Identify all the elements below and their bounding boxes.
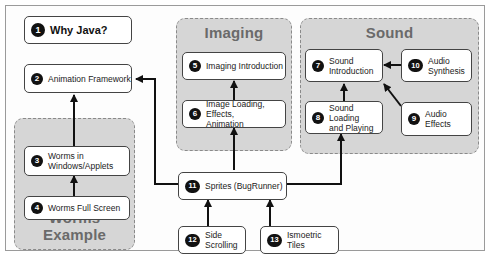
- badge-12-icon: 12: [185, 234, 200, 247]
- node-label: Image Loading, Effects, Animation: [206, 99, 285, 129]
- node-worms-windows-applets: 3 Worms in Windows/Applets: [24, 146, 130, 176]
- node-sound-introduction: 7 Sound Introduction: [305, 49, 383, 82]
- badge-5-icon: 5: [189, 60, 201, 72]
- node-image-loading-effects: 6 Image Loading, Effects, Animation: [182, 100, 286, 128]
- badge-11-icon: 11: [185, 180, 200, 193]
- node-why-java: 1 Why Java?: [24, 16, 132, 44]
- badge-8-icon: 8: [312, 112, 324, 124]
- node-audio-synthesis: 10 Audio Synthesis: [401, 49, 472, 82]
- node-label: Imaging Introduction: [206, 61, 283, 71]
- node-sprites-bugrunner: 11 Sprites (BugRunner): [178, 172, 287, 200]
- node-worms-full-screen: 4 Worms Full Screen: [24, 196, 130, 220]
- node-label: Sound Introduction: [329, 56, 373, 76]
- node-audio-effects: 9 Audio Effects: [401, 102, 472, 136]
- badge-1-icon: 1: [31, 23, 45, 37]
- badge-13-icon: 13: [267, 234, 282, 247]
- badge-7-icon: 7: [312, 60, 324, 72]
- node-label: Why Java?: [50, 25, 107, 35]
- node-imaging-introduction: 5 Imaging Introduction: [182, 52, 286, 80]
- node-label: Worms in Windows/Applets: [48, 151, 113, 171]
- node-sound-loading-playing: 8 Sound Loading and Playing: [305, 101, 383, 134]
- badge-9-icon: 9: [408, 113, 420, 125]
- badge-2-icon: 2: [31, 73, 43, 85]
- badge-10-icon: 10: [408, 59, 423, 72]
- node-animation-framework: 2 Animation Framework: [24, 64, 132, 93]
- node-label: Audio Synthesis: [428, 56, 465, 76]
- node-label: Side Scrolling: [205, 230, 245, 250]
- node-label: Worms Full Screen: [48, 203, 120, 213]
- badge-4-icon: 4: [31, 202, 43, 214]
- badge-3-icon: 3: [31, 155, 43, 167]
- node-side-scrolling: 12 Side Scrolling: [178, 226, 246, 254]
- node-label: Ismoetric Tiles: [287, 230, 338, 250]
- badge-6-icon: 6: [189, 108, 201, 120]
- node-label: Sprites (BugRunner): [205, 181, 282, 191]
- node-label: Audio Effects: [425, 109, 451, 129]
- node-label: Animation Framework: [48, 74, 131, 84]
- node-isometric-tiles: 13 Ismoetric Tiles: [260, 226, 339, 254]
- node-label: Sound Loading and Playing: [329, 103, 382, 133]
